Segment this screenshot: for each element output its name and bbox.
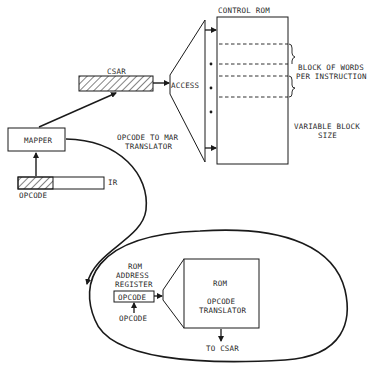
brace-label-line2: PER INSTRUCTION (296, 72, 367, 81)
rom-address-register: ROM ADDRESS REGISTER OPCODE OPCODE (114, 262, 162, 323)
rom-opcode-translator: ROM OPCODE TRANSLATOR TO CSAR (163, 259, 259, 353)
rom-translator-line3: TRANSLATOR (199, 306, 246, 315)
brace-label-line1: BLOCK OF WORDS (298, 63, 364, 72)
block-brace: BLOCK OF WORDS PER INSTRUCTION (289, 44, 367, 97)
rom-translator-box (184, 259, 259, 328)
csar-label: CSAR (107, 67, 126, 76)
rom-translator-line1: ROM (213, 279, 227, 288)
mapper: MAPPER (8, 93, 116, 151)
translator-label: OPCODE TO MAR TRANSLATOR (117, 133, 179, 151)
rar-label-line3: REGISTER (115, 280, 153, 289)
rar-label-line1: ROM (128, 262, 142, 271)
translator-label-line2: TRANSLATOR (125, 142, 172, 151)
ellipsis-dot (210, 111, 213, 114)
rar-input-label: OPCODE (119, 314, 148, 323)
ir-opcode-label: OPCODE (19, 191, 48, 200)
csar-box (79, 76, 153, 91)
ellipsis-dot (210, 87, 213, 90)
control-rom: CONTROL ROM (217, 6, 288, 164)
rar-field-label: OPCODE (118, 293, 147, 302)
ir-opcode-field (18, 177, 53, 189)
control-rom-title: CONTROL ROM (218, 6, 270, 15)
ellipsis-dot (210, 63, 213, 66)
rar-label-line2: ADDRESS (116, 271, 149, 280)
microprogram-mapper-diagram: CONTROL ROM BLOCK OF WORDS PER INSTRUCTI… (0, 0, 373, 367)
access-label: ACCESS (171, 81, 200, 90)
output-label: TO CSAR (206, 344, 239, 353)
csar-register: CSAR (79, 67, 169, 91)
mapper-label: MAPPER (24, 136, 53, 145)
variable-label-line2: SIZE (318, 131, 337, 140)
variable-label-line1: VARIABLE BLOCK (294, 122, 360, 131)
rom-translator-line2: OPCODE (207, 297, 236, 306)
mapper-to-csar-arrow (39, 93, 116, 127)
ir-label: IR (108, 178, 118, 187)
translator-label-line1: OPCODE TO MAR (117, 133, 179, 142)
rom-translator-trapezoid (163, 259, 184, 328)
instruction-register: IR OPCODE (18, 153, 118, 200)
control-rom-box (217, 17, 288, 164)
variable-block-label: VARIABLE BLOCK SIZE (294, 122, 360, 140)
